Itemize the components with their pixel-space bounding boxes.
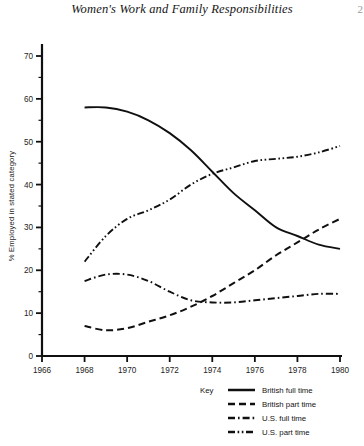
x-axis-tick-label: 1972 <box>161 366 180 375</box>
x-axis-tick-label: 1968 <box>75 366 94 375</box>
series-line-2 <box>85 274 340 303</box>
y-axis-tick-label: 70 <box>24 52 34 61</box>
page-header: Women's Work and Family Responsibilities… <box>0 2 364 24</box>
legend-label-3: U.S. part time <box>262 428 310 437</box>
chart-plot-area: 0102030405060701966196819701972197419761… <box>0 24 364 446</box>
y-axis-tick-label: 0 <box>28 352 33 361</box>
x-axis-tick-label: 1966 <box>33 366 52 375</box>
axis-spine <box>42 44 342 356</box>
line-chart-figure: 0102030405060701966196819701972197419761… <box>0 24 364 446</box>
y-axis-tick-label: 40 <box>24 181 34 190</box>
y-axis-tick-label: 30 <box>24 223 34 232</box>
x-axis-tick-label: 1974 <box>203 366 222 375</box>
series-line-0 <box>85 107 340 249</box>
legend-label-0: British full time <box>262 386 313 395</box>
x-axis-tick-label: 1978 <box>288 366 307 375</box>
legend-key-label: Key <box>200 386 214 395</box>
y-axis-tick-label: 50 <box>24 138 34 147</box>
x-axis-tick-label: 1976 <box>246 366 265 375</box>
x-axis-tick-label: 1980 <box>331 366 350 375</box>
series-line-3 <box>85 146 340 262</box>
legend-label-1: British part time <box>262 400 316 409</box>
page-title: Women's Work and Family Responsibilities <box>0 2 364 17</box>
y-axis-tick-label: 10 <box>24 309 34 318</box>
x-axis-tick-label: 1970 <box>118 366 137 375</box>
y-axis-tick-label: 20 <box>24 266 34 275</box>
y-axis-tick-label: 60 <box>24 95 34 104</box>
page-number: 2 <box>358 3 364 15</box>
y-axis-title: % Employed in stated category <box>7 151 16 261</box>
legend-label-2: U.S. full time <box>262 414 306 423</box>
